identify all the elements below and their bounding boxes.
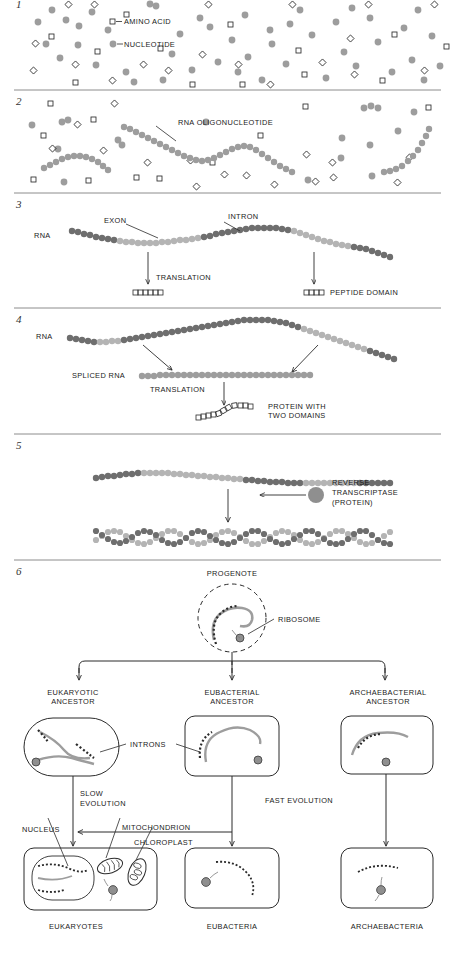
label-exon: EXON	[104, 216, 126, 225]
label-translation-4: TRANSLATION	[150, 385, 205, 394]
label-introns: INTRONS	[130, 740, 166, 749]
panel-number-1: 1	[16, 0, 22, 10]
panel-number-4: 4	[16, 313, 22, 325]
panel6-lineages	[24, 584, 433, 910]
label-rna-oligonucleotide: RNA OLIGONUCLEOTIDE	[178, 118, 273, 127]
eubacteria-ribosome-icon	[202, 878, 211, 887]
label-eubacteria: EUBACTERIA	[207, 922, 258, 931]
panel-number-3: 3	[16, 198, 22, 210]
label-fast-evolution: FAST EVOLUTION	[265, 796, 333, 805]
oligo-chain-short	[41, 153, 111, 173]
label-chloroplast: CHLOROPLAST	[134, 838, 193, 847]
label-eubacterial-ancestor-line2: ANCESTOR	[210, 697, 254, 706]
progenote-membrane	[198, 584, 266, 652]
label-eubacterial-ancestor-line1: EUBACTERIAL	[204, 688, 259, 697]
legend-amino-acid-marker	[110, 19, 115, 24]
oligo-chain-right	[381, 126, 432, 175]
panel2-oligonucleotides	[29, 100, 433, 190]
dna-double-helix	[93, 528, 393, 547]
eukaryotic-genome-light-a	[40, 732, 90, 758]
legend-label-amino-acid: AMINO ACID	[124, 17, 171, 26]
legend-label-nucleotide: NUCLEOTIDE	[124, 40, 175, 49]
rna-chain-3	[69, 225, 393, 260]
label-protein-line1: PROTEIN WITH	[268, 402, 326, 411]
archaebacteria-ribosome-icon	[375, 877, 385, 901]
eukaryote-ribosome-icon	[104, 879, 117, 901]
eubacterial-genome-light	[205, 727, 260, 762]
eubacteria-genome	[216, 862, 253, 896]
reverse-transcriptase-icon	[308, 487, 324, 503]
label-rna-4: RNA	[36, 332, 53, 341]
label-archaebacteria: ARCHAEBACTERIA	[351, 922, 424, 931]
spliced-rna-chain	[139, 372, 313, 379]
eubacteria-cell	[185, 848, 279, 908]
eukaryotic-ancestor-cell	[24, 718, 119, 776]
rna-chain-4	[67, 317, 397, 362]
oligo-chain-long	[121, 124, 295, 175]
label-enzyme-line3: (PROTEIN)	[332, 498, 373, 507]
panel-number-6: 6	[16, 565, 22, 577]
eubacterial-ribosome-icon	[254, 756, 262, 764]
nucleotide-circles	[35, 1, 444, 86]
panel3-exon-intron	[69, 222, 393, 295]
splice-arrow-right	[292, 345, 318, 372]
nuclear-dna-a	[38, 864, 88, 871]
legend-nucleotide-marker	[110, 41, 117, 48]
label-enzyme-line2: TRANSCRIPTASE	[332, 488, 398, 497]
label-archaebacterial-ancestor-line1: ARCHAEBACTERIAL	[349, 688, 426, 697]
archaebacterial-ribosome-icon	[382, 758, 390, 766]
label-translation-3: TRANSLATION	[156, 273, 211, 282]
label-spliced-rna: SPLICED RNA	[72, 371, 125, 380]
label-archaebacterial-ancestor-line2: ANCESTOR	[366, 697, 410, 706]
panel1-monomers	[30, 1, 449, 88]
eukaryotic-intron-b	[76, 744, 94, 758]
leader-introns-right	[176, 744, 200, 752]
mitochondrion-icon	[95, 855, 124, 876]
label-eukaryotic-ancestor-line2: ANCESTOR	[51, 697, 95, 706]
archaebacteria-cell	[341, 848, 433, 908]
eukaryotic-ribosome-icon	[32, 758, 40, 766]
leader-introns-left	[100, 744, 126, 752]
nuclear-dna-b	[38, 876, 72, 880]
panel-number-5: 5	[16, 439, 22, 451]
label-slow-line2: EVOLUTION	[80, 799, 126, 808]
label-rna-3: RNA	[34, 231, 51, 240]
progenote-genome-light	[213, 608, 252, 640]
panel4-splicing	[67, 317, 397, 420]
label-mitochondrion: MITOCHONDRION	[122, 823, 190, 832]
label-protein-line2: TWO DOMAINS	[268, 411, 326, 420]
label-peptide-domain: PEPTIDE DOMAIN	[330, 288, 398, 297]
label-nucleus: NUCLEUS	[22, 825, 60, 834]
label-progenote: PROGENOTE	[207, 569, 257, 578]
splice-arrow-left	[143, 345, 172, 370]
label-eukaryotic-ancestor-line1: EUKARYOTIC	[47, 688, 98, 697]
archaebacteria-genome	[358, 866, 398, 872]
eubacterial-ancestor-cell	[185, 716, 279, 776]
nuclear-dna-c	[38, 890, 64, 892]
label-eukaryotes: EUKARYOTES	[49, 922, 103, 931]
panel-number-2: 2	[16, 95, 22, 107]
leader-rna-oligo	[156, 126, 176, 141]
label-ribosome: RIBOSOME	[278, 615, 321, 624]
figure-graphics	[0, 0, 455, 955]
label-slow-line1: SLOW	[80, 789, 103, 798]
label-intron: INTRON	[228, 212, 258, 221]
peptide-domain-left	[133, 290, 163, 295]
chloroplast-icon	[124, 856, 149, 888]
leader-mitochondrion	[106, 818, 120, 858]
two-domain-protein	[196, 403, 253, 420]
label-enzyme-line1: REVERSE	[332, 478, 370, 487]
leader-exon	[126, 224, 158, 238]
figure-canvas: 1 2 3 4 5 6 AMINO ACID NUCLEOTIDE RNA OL…	[0, 0, 455, 955]
peptide-domain-right	[304, 290, 324, 295]
